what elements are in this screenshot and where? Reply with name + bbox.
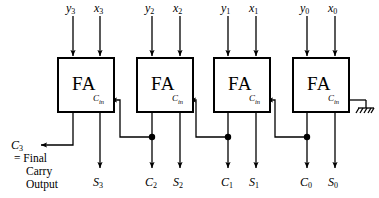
full-adder-label-3: FA bbox=[72, 73, 96, 95]
cin-text-1: Cin bbox=[249, 93, 260, 103]
signal-label-c1: C1 bbox=[221, 175, 233, 190]
full-adder-label-0: FA bbox=[307, 73, 331, 95]
signal-label-s2: S2 bbox=[173, 175, 183, 190]
junction-dot-c1 bbox=[225, 134, 231, 140]
ground-hatch-4 bbox=[368, 108, 371, 113]
cin-text-2: Cin bbox=[172, 93, 183, 103]
signal-label-s0: S0 bbox=[328, 175, 338, 190]
carry-wire-c3-final bbox=[41, 113, 73, 145]
signal-label-x3: x3 bbox=[94, 1, 103, 16]
ground-hatch-3 bbox=[364, 108, 367, 113]
ground-hatch-1 bbox=[356, 108, 359, 113]
ground-hatch-2 bbox=[360, 108, 363, 113]
signal-label-s3: S3 bbox=[93, 175, 103, 190]
final-carry-note-line3: Output bbox=[26, 178, 58, 192]
signal-label-y3: y3 bbox=[66, 1, 75, 16]
final-carry-note-line2: Carry bbox=[26, 165, 52, 179]
signal-label-c0: C0 bbox=[300, 175, 312, 190]
signal-label-y1: y1 bbox=[221, 1, 230, 16]
full-adder-label-1: FA bbox=[228, 73, 252, 95]
cin-label-1: Cin bbox=[249, 93, 260, 105]
cin-label-0: Cin bbox=[328, 93, 339, 105]
junction-dot-c2 bbox=[149, 134, 155, 140]
signal-label-x2: x2 bbox=[173, 1, 182, 16]
signal-label-s1: S1 bbox=[249, 175, 259, 190]
signal-label-y0: y0 bbox=[300, 1, 309, 16]
signal-label-final-carry: C3 bbox=[11, 138, 23, 153]
signal-label-c2: C2 bbox=[145, 175, 157, 190]
signal-label-x1: x1 bbox=[249, 1, 258, 16]
cin-text-3: Cin bbox=[93, 93, 104, 103]
final-carry-note-line1: = Final bbox=[14, 152, 47, 166]
ripple-carry-adder-diagram: FA Cin FA Cin FA Cin FA Cin y3 x3 y2 x2 … bbox=[0, 0, 379, 198]
signal-label-y2: y2 bbox=[145, 1, 154, 16]
cin-label-3: Cin bbox=[93, 93, 104, 105]
cin-text-0: Cin bbox=[328, 93, 339, 103]
junction-dot-c0 bbox=[304, 134, 310, 140]
full-adder-label-2: FA bbox=[151, 73, 175, 95]
cin-label-2: Cin bbox=[172, 93, 183, 105]
ground-hatch-5 bbox=[371, 108, 374, 113]
signal-label-x0: x0 bbox=[328, 1, 337, 16]
